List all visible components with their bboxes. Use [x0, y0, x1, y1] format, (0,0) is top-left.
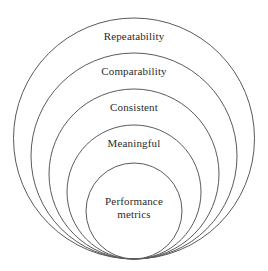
circle-repeatability — [14, 18, 255, 259]
circle-consistent — [49, 89, 219, 259]
circle-meaningful — [67, 125, 201, 259]
nested-circles-diagram: Repeatability Comparability Consistent M… — [0, 0, 268, 271]
circle-comparability — [31, 53, 237, 259]
venn-circles-svg — [0, 0, 268, 271]
circle-performance-metrics — [86, 163, 182, 259]
